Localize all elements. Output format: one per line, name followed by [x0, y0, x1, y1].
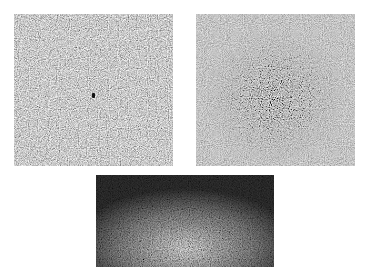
- noise-panel-c: [96, 175, 274, 267]
- noise-image-c: [96, 175, 274, 267]
- noise-image-b: [196, 14, 355, 166]
- noise-panel-b: [196, 14, 355, 166]
- noise-panel-a: [14, 14, 173, 166]
- noise-image-a: [14, 14, 173, 166]
- center-marker: [92, 93, 95, 98]
